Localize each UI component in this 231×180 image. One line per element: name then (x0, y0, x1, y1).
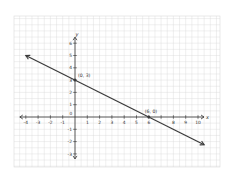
point-marker (147, 116, 150, 119)
x-tick-label: -3 (36, 120, 41, 125)
grid (14, 16, 220, 167)
line-graph: -4-3-2-101234568910 -3-2-1123456 (0, 3)(… (0, 0, 231, 180)
x-tick-label: 9 (184, 120, 187, 125)
y-tick-label: 4 (69, 65, 72, 70)
x-tick-label: -1 (61, 120, 66, 125)
x-tick-label: 2 (98, 120, 101, 125)
y-tick-label: 2 (69, 90, 72, 95)
y-tick-label: 5 (69, 53, 72, 58)
x-tick-label: 0 (70, 111, 73, 116)
point-marker (74, 79, 77, 82)
x-tick-label: 5 (135, 120, 138, 125)
x-tick-label: 6 (147, 120, 150, 125)
x-tick-label: 10 (195, 120, 201, 125)
y-tick-label: -1 (68, 127, 73, 132)
point-label: (0, 3) (78, 73, 91, 78)
y-tick-label: 1 (69, 102, 72, 107)
y-tick-label: 6 (69, 41, 72, 46)
x-tick-label: 3 (111, 120, 114, 125)
x-tick-label: -2 (48, 120, 53, 125)
y-tick-label: -3 (68, 152, 73, 157)
x-tick-label: 1 (86, 120, 89, 125)
y-tick-label: -2 (68, 139, 73, 144)
x-axis-label: x (205, 114, 209, 120)
x-tick-label: 8 (172, 120, 175, 125)
x-tick-label: -4 (24, 120, 29, 125)
point-label: (6, 0) (145, 109, 158, 114)
x-tick-label: 4 (123, 120, 126, 125)
grid-border (14, 16, 220, 167)
